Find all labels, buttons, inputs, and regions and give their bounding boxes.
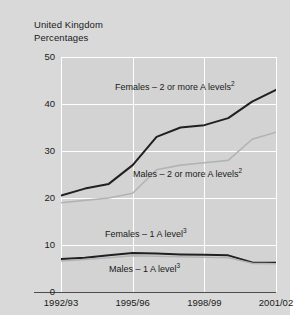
- y-axis-tick-label: 20: [9, 192, 55, 203]
- x-axis-line: [34, 292, 276, 293]
- series-label-males-1: Males – 1 A level3: [109, 262, 180, 274]
- series-label-footnote: 3: [183, 227, 187, 234]
- x-axis-tick-label: 1995/96: [115, 297, 149, 308]
- x-axis-tick-label: 1998/99: [187, 297, 221, 308]
- y-axis-tick-label: 10: [9, 239, 55, 250]
- series-label-text: Males – 2 or more A levels: [133, 169, 239, 179]
- series-label-footnote: 2: [239, 167, 243, 174]
- gridline-vertical: [276, 57, 277, 292]
- series-label-males-2plus: Males – 2 or more A levels2: [133, 167, 242, 179]
- y-axis-tick-label: 30: [9, 145, 55, 156]
- series-label-footnote: 2: [231, 80, 235, 87]
- y-axis-tick-label: 40: [9, 98, 55, 109]
- series-label-text: Males – 1 A level: [109, 264, 177, 274]
- series-label-females-1: Females – 1 A level3: [105, 227, 187, 239]
- series-label-text: Females – 2 or more A levels: [115, 82, 231, 92]
- series-label-text: Females – 1 A level: [105, 229, 183, 239]
- y-axis-ticks: 01020304050: [5, 5, 55, 315]
- series-label-footnote: 3: [177, 262, 181, 269]
- y-axis-tick-label: 0: [9, 286, 55, 297]
- series-label-females-2plus: Females – 2 or more A levels2: [115, 80, 235, 92]
- chart-canvas: United Kingdom Percentages 01020304050 1…: [5, 5, 285, 310]
- chart-figure: United Kingdom Percentages 01020304050 1…: [0, 0, 290, 315]
- x-axis-tick-label: 2001/02: [259, 297, 290, 308]
- y-axis-tick-label: 50: [9, 51, 55, 62]
- series-line: [61, 90, 276, 196]
- x-axis-tick-label: 1992/93: [44, 297, 78, 308]
